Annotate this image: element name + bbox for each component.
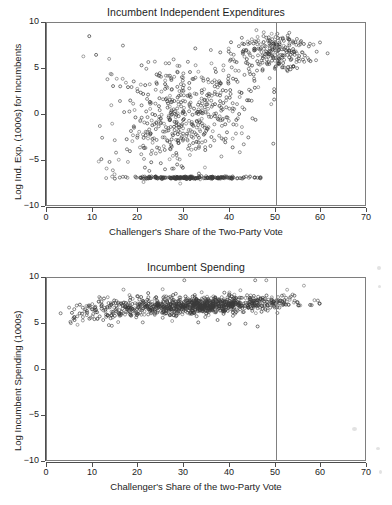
x-axis-tick-label: 50 — [260, 212, 290, 222]
x-axis-tick-label: 20 — [122, 467, 152, 477]
y-axis-tick — [41, 114, 45, 115]
x-axis-tick-label: 20 — [122, 212, 152, 222]
vertical-reference-line-50 — [276, 23, 277, 205]
plot-area[interactable] — [46, 277, 366, 461]
chart-title: Incumbent Independent Expenditures — [0, 6, 392, 18]
x-axis-tick-label: 70 — [351, 212, 381, 222]
x-axis-tick-label: 70 — [351, 467, 381, 477]
y-axis-tick — [41, 277, 45, 278]
y-axis-title: Log Ind. Exp. (1000s) for Incumbents — [12, 44, 23, 200]
x-axis-tick-label: 40 — [214, 212, 244, 222]
scan-artifact — [352, 427, 357, 431]
y-axis-tick-label: −10 — [0, 455, 39, 465]
scan-artifact — [378, 285, 381, 288]
scatter-points — [47, 23, 365, 205]
y-axis-tick — [41, 369, 45, 370]
chart-title: Incumbent Spending — [0, 261, 392, 273]
y-axis-tick-label: 10 — [0, 16, 39, 26]
y-axis-tick — [41, 206, 45, 207]
x-axis-tick-label: 10 — [77, 467, 107, 477]
x-axis-tick-label: 10 — [77, 212, 107, 222]
scan-artifact — [377, 266, 381, 270]
y-axis-line — [45, 277, 46, 461]
y-axis-tick-label: 10 — [0, 271, 39, 281]
x-axis-tick-label: 0 — [31, 467, 61, 477]
y-axis-title: Log Incumbent Spending (1000s) — [12, 311, 23, 452]
vertical-reference-line-50 — [276, 278, 277, 460]
y-axis-line — [45, 22, 46, 206]
scatter-points — [47, 278, 365, 460]
x-axis-tick-label: 0 — [31, 212, 61, 222]
x-axis-tick-label: 50 — [260, 467, 290, 477]
x-axis-tick-label: 40 — [214, 467, 244, 477]
y-axis-tick — [41, 160, 45, 161]
x-axis-title: Challenger's Share of the Two-Party Vote — [0, 226, 392, 237]
x-axis-tick-label: 60 — [305, 212, 335, 222]
scan-artifact — [379, 470, 382, 474]
scan-artifact — [376, 447, 380, 450]
x-axis-tick-label: 30 — [168, 212, 198, 222]
y-axis-tick — [41, 323, 45, 324]
y-axis-tick-label: −10 — [0, 200, 39, 210]
x-axis-line — [46, 462, 366, 463]
y-axis-tick — [41, 415, 45, 416]
x-axis-tick-label: 60 — [305, 467, 335, 477]
x-axis-title: Challenger's Share of the two-Party Vote — [0, 481, 392, 492]
plot-area[interactable] — [46, 22, 366, 206]
y-axis-tick — [41, 461, 45, 462]
chart-incumbent-independent-expenditures: Incumbent Independent Expenditures 1050−… — [0, 0, 392, 252]
y-axis-tick — [41, 22, 45, 23]
x-axis-line — [46, 207, 366, 208]
y-axis-tick — [41, 68, 45, 69]
x-axis-tick-label: 30 — [168, 467, 198, 477]
chart-incumbent-spending: Incumbent Spending 1050−5−10 01020304050… — [0, 253, 392, 505]
